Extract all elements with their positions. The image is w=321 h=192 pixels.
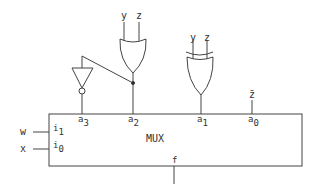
a0-signal-label: z̄: [249, 89, 255, 100]
xor-input-y-label: y: [190, 32, 196, 43]
xor-input-z-label: z: [204, 32, 210, 43]
input-w-label: w: [20, 126, 27, 137]
or-input-z-label: z: [136, 10, 142, 21]
or-input-y-label: y: [121, 10, 127, 21]
pin-a2-label: a2: [128, 114, 139, 128]
output-f-label: f: [172, 155, 177, 165]
mux-circuit-diagram: y z y z z̄ w x i1 i0 a3 a2 a1 a0 MUX f: [0, 0, 321, 192]
pin-a0-label: a0: [248, 114, 259, 128]
pin-i1-label: i1: [53, 123, 64, 137]
input-x-label: x: [20, 143, 26, 154]
xor-gate-icon: [186, 40, 213, 95]
pin-a3-label: a3: [78, 114, 89, 128]
mux-title: MUX: [146, 133, 164, 144]
wire-branch-inverter: [82, 56, 133, 83]
or-gate-icon: [120, 22, 146, 73]
pin-a1-label: a1: [197, 114, 208, 128]
pin-i0-label: i0: [53, 140, 64, 154]
inverter-gate-icon: [72, 68, 93, 94]
